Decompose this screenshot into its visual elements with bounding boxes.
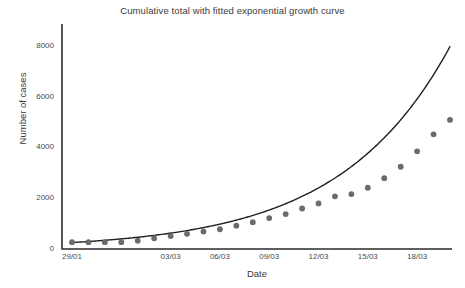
data-point — [299, 206, 305, 212]
data-point — [283, 211, 289, 217]
data-point — [431, 131, 437, 137]
plot-area — [0, 0, 465, 288]
data-point — [447, 117, 453, 123]
data-point — [168, 233, 174, 239]
data-point-group — [69, 117, 453, 245]
data-point — [250, 219, 256, 225]
data-point — [316, 201, 322, 207]
data-point — [184, 231, 190, 237]
data-point — [102, 239, 108, 245]
data-point — [217, 226, 223, 232]
data-point — [135, 238, 141, 244]
chart-container: Cumulative total with fitted exponential… — [0, 0, 465, 288]
data-point — [201, 229, 207, 235]
data-point — [69, 239, 75, 245]
data-point — [151, 235, 157, 241]
data-point — [118, 239, 124, 245]
data-point — [381, 175, 387, 181]
axis-lines — [62, 24, 452, 249]
data-point — [332, 193, 338, 199]
data-point — [266, 215, 272, 221]
data-point — [365, 185, 371, 191]
data-point — [414, 148, 420, 154]
data-point — [398, 164, 404, 170]
data-point — [233, 223, 239, 229]
fitted-exponential-curve — [72, 47, 450, 243]
data-point — [86, 239, 92, 245]
data-point — [348, 191, 354, 197]
